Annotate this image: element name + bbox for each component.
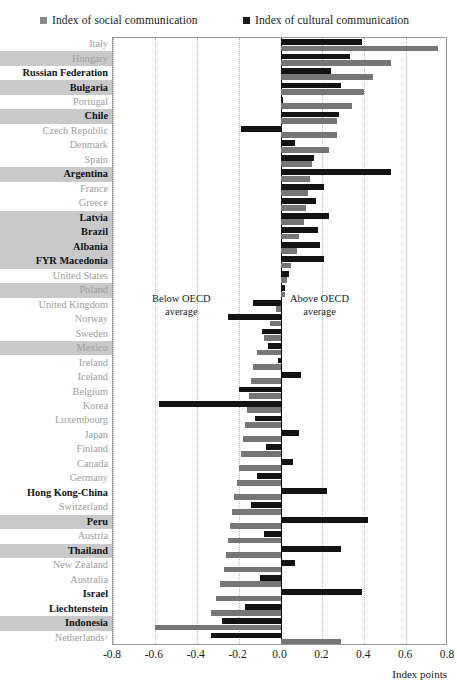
bar-cultural	[281, 112, 340, 118]
category-label-text: Thailand	[68, 546, 108, 556]
category-label-text: Denmark	[70, 140, 108, 150]
bar-social	[281, 176, 310, 182]
bar-social	[281, 263, 291, 269]
category-label-peru: Peru	[0, 515, 112, 529]
category-label-text: Sweden	[75, 329, 108, 339]
category-label-text: Latvia	[79, 213, 108, 223]
bar-social	[251, 378, 280, 384]
annotation-above-oecd: Above OECD average	[290, 293, 349, 318]
category-label-text: Australia	[70, 575, 108, 585]
gridline	[322, 38, 323, 644]
category-label-italy: Italy	[0, 37, 112, 51]
category-label-germany: Germany	[0, 471, 112, 485]
category-label-text: FYR Macedonia	[36, 256, 108, 266]
category-label-thailand: Thailand	[0, 544, 112, 558]
category-label-hungary: Hungary	[0, 51, 112, 65]
bar-cultural	[281, 39, 363, 45]
category-label-japan: Japan	[0, 428, 112, 442]
category-label-text: Indonesia	[65, 618, 108, 628]
x-axis-title: Index points	[392, 668, 447, 680]
category-label-text: Israel	[83, 589, 108, 599]
bar-social	[224, 567, 281, 573]
bar-social	[281, 89, 365, 95]
bar-social	[281, 639, 342, 645]
category-label-text: Luxembourg	[55, 415, 108, 425]
bar-social	[281, 277, 287, 283]
bar-cultural	[281, 83, 342, 89]
category-label-israel: Israel	[0, 587, 112, 601]
category-label-text: Albania	[73, 242, 108, 252]
category-label-text: United Kingdom	[39, 300, 109, 310]
bar-cultural	[281, 560, 296, 566]
bar-cultural	[281, 285, 285, 291]
category-label-text: Portugal	[73, 97, 108, 107]
category-label-text: France	[80, 184, 108, 194]
category-label-text: Spain	[85, 155, 108, 165]
bar-social	[226, 552, 280, 558]
category-label-brazil: Brazil	[0, 225, 112, 239]
category-label-text: Korea	[83, 401, 108, 411]
gridline	[197, 38, 198, 644]
bar-cultural	[281, 372, 302, 378]
category-label-norway: Norway	[0, 312, 112, 326]
gridline	[113, 38, 114, 644]
category-label-luxembourg: Luxembourg	[0, 413, 112, 427]
bar-cultural	[268, 343, 281, 349]
annotation-below-oecd: Below OECD average	[152, 293, 211, 318]
plot-area	[112, 37, 447, 645]
category-label-text: Germany	[70, 473, 108, 483]
bar-social	[281, 161, 312, 167]
bar-social	[241, 451, 281, 457]
bar-cultural	[281, 184, 325, 190]
x-axis-ticks: -0.8-0.6-0.4-0.20.00.20.40.60.8	[112, 648, 447, 664]
bar-social	[281, 132, 338, 138]
bar-social	[281, 205, 306, 211]
category-label-latvia: Latvia	[0, 211, 112, 225]
category-label-text: New Zealand	[53, 560, 108, 570]
annotation-above-line2: average	[290, 306, 349, 319]
bar-social	[281, 219, 304, 225]
bar-social	[281, 248, 298, 254]
bar-cultural	[281, 271, 289, 277]
bar-social	[281, 234, 300, 240]
category-label-text: Peru	[87, 517, 108, 527]
bar-cultural	[281, 430, 300, 436]
category-label-text: Poland	[79, 285, 108, 295]
bar-social	[228, 538, 280, 544]
bar-social	[270, 321, 280, 327]
bar-social	[264, 335, 281, 341]
category-label-text: Switzerland	[59, 502, 108, 512]
category-label-new-zealand: New Zealand	[0, 558, 112, 572]
bar-social	[281, 190, 308, 196]
bar-social	[230, 523, 280, 529]
x-tick-label: -0.6	[145, 648, 163, 660]
bar-cultural	[253, 300, 280, 306]
x-tick-label: 0.8	[440, 648, 454, 660]
category-label-netherlands: Netherlands1	[0, 631, 112, 645]
category-label-text: Hungary	[72, 54, 108, 64]
x-tick-label: -0.8	[103, 648, 121, 660]
category-label-text: Netherlands	[55, 633, 105, 643]
x-tick-label: -0.4	[187, 648, 205, 660]
bar-cultural	[281, 589, 363, 595]
category-label-text: Mexico	[77, 343, 108, 353]
bar-cultural	[257, 473, 280, 479]
bar-social	[245, 422, 281, 428]
category-label-liechtenstein: Liechtenstein	[0, 602, 112, 616]
bar-social	[281, 74, 373, 80]
gridline	[406, 38, 407, 644]
bar-cultural	[264, 531, 281, 537]
bar-social	[239, 465, 281, 471]
category-label-belgium: Belgium	[0, 384, 112, 398]
bar-cultural	[222, 618, 281, 624]
category-label-text: Czech Republic	[43, 126, 108, 136]
category-label-denmark: Denmark	[0, 138, 112, 152]
category-label-text: Bulgaria	[70, 83, 108, 93]
bar-cultural	[281, 97, 283, 103]
category-label-france: France	[0, 182, 112, 196]
category-label-portugal: Portugal	[0, 95, 112, 109]
bar-chart: ItalyHungaryRussian FederationBulgariaPo…	[0, 0, 457, 689]
bar-cultural	[281, 227, 319, 233]
category-label-austria: Austria	[0, 529, 112, 543]
category-label-mexico: Mexico	[0, 341, 112, 355]
